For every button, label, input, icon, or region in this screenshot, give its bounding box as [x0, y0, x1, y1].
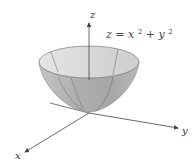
- eq-y: y: [157, 28, 165, 41]
- eq-x-exp: 2: [138, 28, 142, 36]
- eq-y-exp: 2: [168, 28, 172, 36]
- equation-label: z = x 2 + y 2: [105, 24, 173, 41]
- eq-lhs: z: [105, 28, 112, 41]
- y-axis-label: y: [181, 125, 188, 136]
- eq-x: x: [128, 28, 135, 41]
- x-axis: [25, 113, 89, 152]
- eq-plus: +: [146, 28, 155, 41]
- z-axis-label: z: [89, 9, 96, 20]
- paraboloid-diagram: z y x z = x 2 + y 2: [0, 0, 195, 164]
- eq-sign: =: [115, 28, 124, 41]
- y-axis: [89, 113, 178, 128]
- x-axis-label: x: [15, 150, 21, 161]
- diagram-canvas: z y x z = x 2 + y 2: [0, 0, 195, 164]
